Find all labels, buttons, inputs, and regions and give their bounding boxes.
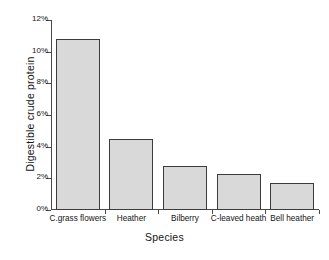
x-axis-tick-mark <box>158 210 159 214</box>
bar <box>109 139 153 210</box>
y-axis-tick-label: 0% <box>36 204 48 213</box>
y-axis-tick-label: 4% <box>36 141 48 150</box>
bar <box>270 183 314 210</box>
x-axis-tick-label: Heather <box>117 214 146 223</box>
x-axis-tick-label: Bell heather <box>270 214 314 223</box>
y-axis-tick-label: 8% <box>36 77 48 86</box>
x-axis-tick-label: Bilberry <box>171 214 199 223</box>
y-axis-tick-label: 2% <box>36 172 48 181</box>
bar <box>56 39 100 210</box>
y-axis-tick-label: 10% <box>32 46 48 55</box>
plot-area: 0%2%4%6%8%10%12% <box>51 20 319 210</box>
x-axis-tick-label: C-leaved heath <box>211 214 267 223</box>
bar <box>217 174 261 210</box>
bar-chart-figure: Digestible crude protein 0%2%4%6%8%10%12… <box>0 0 329 260</box>
y-axis-tick-label: 12% <box>32 14 48 23</box>
y-axis-line <box>51 20 52 210</box>
y-axis-tick-label: 6% <box>36 109 48 118</box>
x-axis-tick-label: C.grass flowers <box>50 214 106 223</box>
x-axis-tick-mark <box>319 210 320 214</box>
x-axis-title: Species <box>0 231 329 243</box>
bar <box>163 166 207 210</box>
